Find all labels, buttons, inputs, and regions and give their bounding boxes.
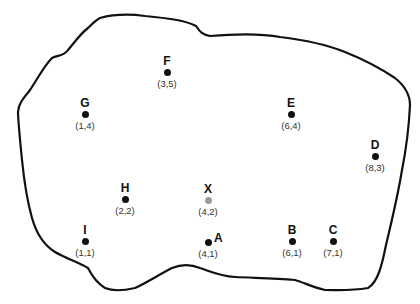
point-coordinate: (4,1)	[188, 249, 228, 259]
map-area: F (3,5) G (1,4) E (6,4) D (8,3) H (2,2) …	[0, 0, 420, 304]
point-label: D	[365, 139, 385, 151]
point-label: E	[281, 97, 301, 109]
point-dot-icon	[82, 111, 89, 118]
point-coordinate: (1,1)	[65, 248, 105, 258]
point-coordinate: (4,2)	[188, 207, 228, 217]
highlighted-point-dot-icon	[205, 197, 212, 204]
point-coordinate: (2,2)	[105, 206, 145, 216]
point-label: B	[282, 224, 302, 236]
point-coordinate: (1,4)	[65, 121, 105, 131]
point-label: H	[115, 182, 135, 194]
point-coordinate: (7,1)	[313, 248, 353, 258]
point-coordinate: (3,5)	[147, 79, 187, 89]
point-coordinate: (6,4)	[271, 121, 311, 131]
point-label: A	[214, 232, 223, 244]
point-dot-icon	[205, 239, 212, 246]
point-dot-icon	[330, 238, 337, 245]
point-dot-icon	[122, 196, 129, 203]
point-coordinate: (8,3)	[355, 163, 395, 173]
point-dot-icon	[288, 111, 295, 118]
point-dot-icon	[372, 153, 379, 160]
point-dot-icon	[164, 69, 171, 76]
point-label: X	[198, 183, 218, 195]
point-label: F	[157, 55, 177, 67]
point-label: C	[323, 224, 343, 236]
point-label: G	[75, 97, 95, 109]
point-coordinate: (6,1)	[272, 248, 312, 258]
point-dot-icon	[289, 238, 296, 245]
point-label: I	[75, 224, 95, 236]
point-dot-icon	[82, 238, 89, 245]
